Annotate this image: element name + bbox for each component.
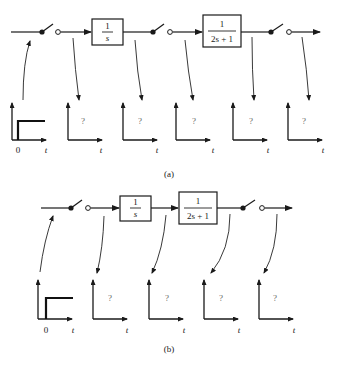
pointer-arrow [73, 38, 79, 100]
svg-text:?: ? [219, 293, 223, 303]
svg-text:t: t [238, 325, 241, 335]
plot-unknown: ? t [288, 103, 325, 155]
switch-icon [240, 200, 264, 211]
svg-text:s: s [134, 209, 138, 219]
pointer-arrow [40, 216, 53, 272]
plot-unknown: ? t [123, 103, 159, 155]
svg-text:t: t [156, 145, 159, 155]
svg-text:t: t [267, 145, 270, 155]
svg-text:t: t [45, 145, 48, 155]
svg-text:t: t [212, 145, 215, 155]
switch-icon [150, 24, 172, 35]
svg-text:?: ? [138, 116, 142, 126]
switch-icon [39, 24, 60, 35]
panel-a: 1 s 1 2s + 1 [11, 15, 325, 179]
svg-text:t: t [322, 145, 325, 155]
transfer-block-first-order: 1 2s + 1 [203, 15, 241, 47]
plot-unknown: ? t [93, 280, 129, 335]
plot-unknown: ? t [204, 280, 241, 335]
caption-a: (a) [164, 169, 174, 179]
svg-text:1: 1 [196, 196, 201, 206]
pointer-arrow [135, 40, 142, 100]
plot-unknown: ? t [233, 103, 270, 155]
transfer-block-first-order: 1 2s + 1 [179, 192, 217, 224]
svg-text:?: ? [81, 116, 85, 126]
svg-text:1: 1 [220, 19, 225, 29]
svg-text:t: t [100, 145, 103, 155]
plot-step-input: 0 t [12, 103, 48, 155]
block-diagram-figure: 1 s 1 2s + 1 [0, 0, 338, 367]
pointer-arrow [23, 41, 30, 100]
pointer-arrow [185, 40, 193, 100]
svg-text:?: ? [165, 293, 169, 303]
transfer-block-integrator: 1 s [120, 196, 151, 221]
svg-text:1: 1 [133, 197, 138, 207]
panel-b: 1 s 1 2s + 1 0 t [38, 192, 296, 354]
pointer-arrow [264, 214, 277, 273]
caption-b: (b) [164, 344, 175, 354]
pointer-arrow [302, 37, 309, 100]
svg-text:?: ? [249, 116, 253, 126]
svg-text:t: t [126, 325, 129, 335]
svg-text:?: ? [108, 293, 112, 303]
svg-text:?: ? [273, 293, 277, 303]
transfer-block-integrator: 1 s [92, 19, 123, 45]
switch-icon [268, 24, 291, 35]
pointer-arrow [252, 37, 254, 100]
plot-unknown: ? t [259, 280, 296, 335]
svg-text:t: t [72, 325, 75, 335]
svg-text:s: s [106, 33, 110, 43]
plot-unknown: ? t [68, 103, 103, 155]
svg-text:t: t [293, 325, 296, 335]
svg-text:1: 1 [105, 21, 110, 31]
plot-unknown: ? t [149, 280, 186, 335]
pointer-arrow [97, 216, 104, 273]
plot-unknown: ? t [176, 103, 215, 155]
svg-text:2s + 1: 2s + 1 [187, 211, 209, 221]
pointer-arrow [152, 215, 166, 273]
svg-text:t: t [183, 325, 186, 335]
plot-step-input: 0 t [38, 280, 75, 335]
svg-text:?: ? [192, 116, 196, 126]
svg-text:?: ? [302, 116, 306, 126]
svg-text:0: 0 [16, 145, 21, 155]
svg-text:2s + 1: 2s + 1 [211, 34, 233, 44]
switch-icon [68, 200, 90, 211]
svg-text:0: 0 [44, 325, 49, 335]
